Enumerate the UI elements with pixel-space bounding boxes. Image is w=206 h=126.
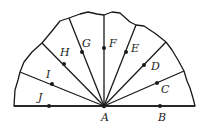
point-b-dot — [158, 104, 162, 108]
point-a-label: A — [100, 111, 109, 124]
ray-ag — [69, 18, 104, 106]
point-d-dot — [142, 63, 146, 67]
ray-ah — [42, 43, 104, 106]
point-f-label: F — [108, 37, 117, 50]
point-i-label: I — [45, 68, 51, 81]
point-a-dot — [102, 104, 106, 108]
point-b-label: B — [157, 111, 166, 124]
point-c-dot — [155, 81, 159, 85]
fan-diagram: BCDEFGHIJ A — [0, 0, 206, 126]
point-e-label: E — [130, 42, 139, 55]
point-i-dot — [50, 82, 54, 86]
point-h-label: H — [59, 46, 70, 59]
point-j-dot — [47, 104, 51, 108]
point-f-dot — [102, 46, 106, 50]
point-e-dot — [124, 50, 128, 54]
point-g-label: G — [82, 37, 91, 50]
point-g-dot — [80, 50, 84, 54]
ray-ai — [20, 72, 104, 106]
point-c-label: C — [161, 83, 170, 96]
point-j-label: J — [36, 91, 43, 104]
point-h-dot — [62, 62, 66, 66]
point-d-label: D — [150, 60, 160, 73]
